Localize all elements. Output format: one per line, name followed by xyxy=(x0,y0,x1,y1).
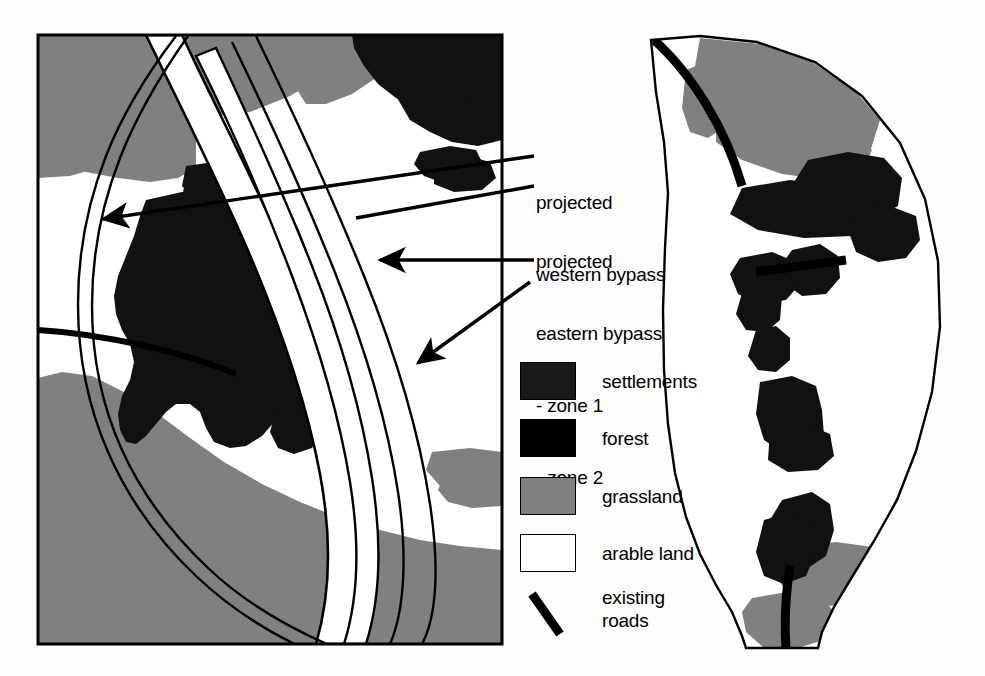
legend-label-arable-land: arable land xyxy=(602,542,694,565)
legend-label-settlements: settlements xyxy=(602,370,697,393)
arrow-eastern-bypass-feeder xyxy=(356,186,534,218)
arrow-eastern-bypass-zone2 xyxy=(418,282,530,363)
legend-swatch-existing-roads xyxy=(520,590,576,628)
legend-swatch-arable-land xyxy=(520,534,576,572)
legend-label-grassland: grassland xyxy=(602,485,683,508)
arrow-western-bypass xyxy=(103,156,534,219)
legend-item-grassland: grassland xyxy=(520,477,683,515)
road-line-icon xyxy=(520,590,576,638)
legend-swatch-settlements xyxy=(520,362,576,400)
annotation-eastern-line-1: projected xyxy=(536,250,662,274)
annotation-arrows xyxy=(0,0,985,676)
legend-label-existing-roads: existing roads xyxy=(602,586,665,632)
legend-item-settlements: settlements xyxy=(520,362,697,400)
legend-item-arable-land: arable land xyxy=(520,534,694,572)
legend-swatch-forest xyxy=(520,419,576,457)
legend-item-existing-roads: existing roads xyxy=(520,586,665,632)
legend-item-forest: forest xyxy=(520,419,648,457)
annotation-eastern-line-2: eastern bypass xyxy=(536,322,662,346)
figure-root: projected western bypass projected easte… xyxy=(0,0,985,676)
legend-label-forest: forest xyxy=(602,427,648,450)
legend-swatch-grassland xyxy=(520,477,576,515)
